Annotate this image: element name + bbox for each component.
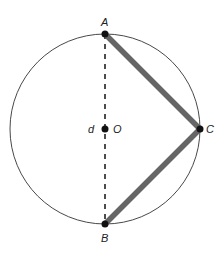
chord-CB — [105, 129, 200, 224]
label-B: B — [101, 232, 108, 244]
label-d: d — [88, 123, 95, 135]
label-O: O — [113, 123, 122, 135]
point-B — [102, 221, 109, 228]
point-O — [102, 126, 109, 133]
point-A — [102, 31, 109, 38]
circle-diagram: A B C O d — [0, 0, 224, 256]
label-C: C — [206, 123, 214, 135]
chord-AC — [105, 34, 200, 129]
label-A: A — [100, 16, 108, 28]
point-C — [197, 126, 204, 133]
